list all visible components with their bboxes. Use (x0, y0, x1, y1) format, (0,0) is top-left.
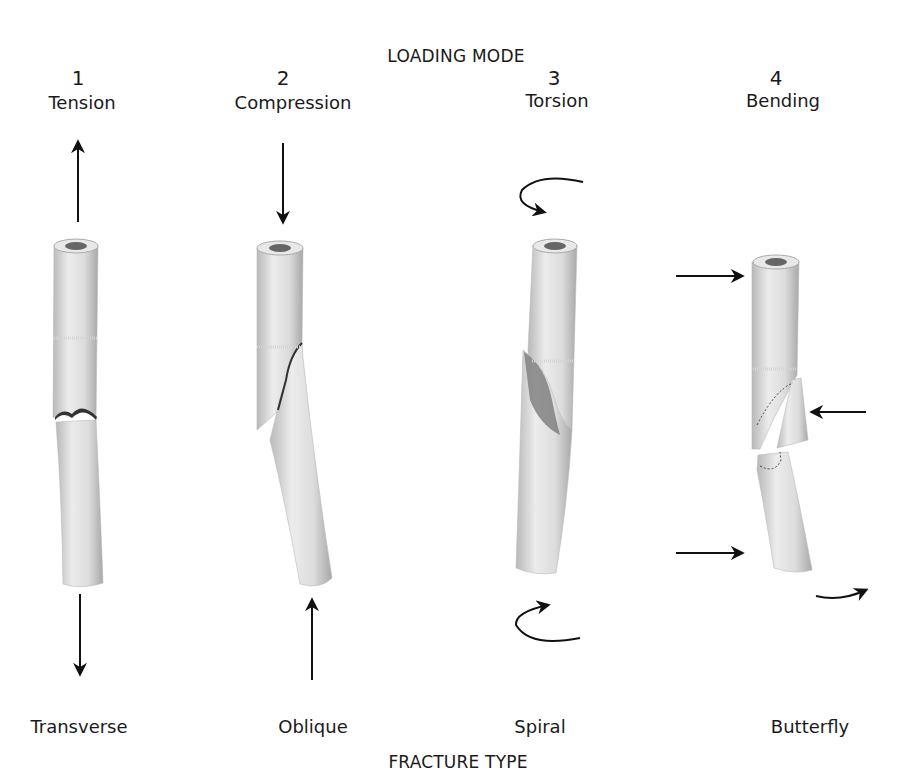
fracture-diagram (0, 0, 909, 776)
bending-curved-arrow-icon (816, 590, 866, 598)
fracture-type-heading: FRACTURE TYPE (388, 752, 527, 772)
torsion-rotate-arrow-bottom-icon (516, 605, 580, 641)
column-4-fracture-type: Butterfly (771, 716, 849, 737)
torsion-rotate-arrow-top-icon (520, 178, 583, 212)
bone-spiral-fracture (516, 239, 577, 574)
column-2-fracture-type: Oblique (278, 716, 348, 737)
column-1-fracture-type: Transverse (30, 716, 127, 737)
column-3-fracture-type: Spiral (514, 716, 565, 737)
bone-oblique-fracture (257, 241, 332, 586)
bone-transverse-fracture (53, 239, 103, 587)
bone-butterfly-fracture (752, 255, 812, 572)
